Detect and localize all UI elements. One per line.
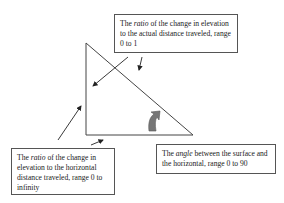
arrow-top-to-hypotenuse: [139, 57, 142, 70]
arrow-left-to-base: [91, 140, 103, 145]
arrow-top-to-vertical: [93, 57, 128, 86]
right-triangle: [86, 43, 193, 135]
note-top-sine-ratio: The ratio of the change in elevation to …: [114, 14, 238, 53]
note-emphasis: angle: [176, 149, 193, 158]
angle-arrow-icon: [149, 111, 160, 131]
note-text: The: [162, 149, 176, 158]
note-bottom-right-angle: The angle between the surface and the ho…: [156, 144, 276, 174]
note-emphasis: ratio: [31, 153, 46, 162]
arrow-left-to-vertical: [58, 106, 81, 140]
note-emphasis: ratio: [134, 19, 149, 28]
note-bottom-left-tangent-ratio: The ratio of the change in elevation to …: [11, 148, 115, 195]
note-text: The: [17, 153, 31, 162]
note-text: The: [120, 19, 134, 28]
